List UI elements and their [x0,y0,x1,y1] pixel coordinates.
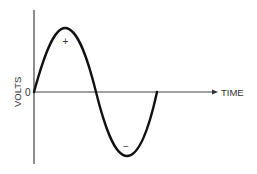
sine-wave-diagram: 0 TIME VOLTS + − [0,0,257,174]
time-axis-label: TIME [221,87,244,98]
positive-marker: + [63,36,69,47]
arrow-right-icon [212,90,218,95]
origin-label: 0 [25,87,31,98]
volts-axis-label: VOLTS [12,77,23,107]
negative-marker: − [123,141,129,152]
